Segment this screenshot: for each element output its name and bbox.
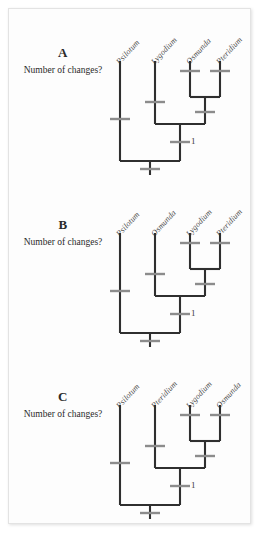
panel-b-cladogram — [9, 181, 251, 353]
panel-c-cladogram — [9, 353, 251, 524]
panel-a: A Number of changes? Psilotum Lygodium O… — [9, 9, 251, 181]
panel-b: B Number of changes? Psilotum Osmunda Ly… — [9, 181, 251, 353]
panel-a-cladogram — [9, 9, 251, 181]
panel-c: C Number of changes? Psilotum Pteridium … — [9, 353, 251, 524]
figure-panel-container: A Number of changes? Psilotum Lygodium O… — [8, 8, 251, 524]
